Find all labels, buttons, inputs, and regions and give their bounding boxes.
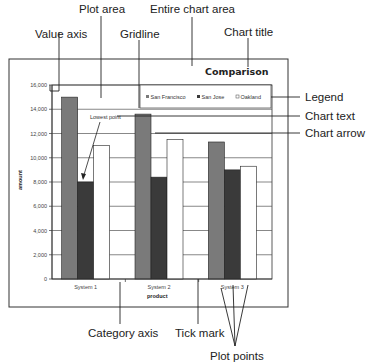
chart-text-lowest-point: Lowest point [90,114,121,120]
y-axis-title: amount [17,170,23,190]
chart-diagram: 02,0004,0006,0008,00010,00012,00014,0001… [0,0,366,364]
callout-legend: Legend [305,91,343,103]
legend-label-san-francisco: San Francisco [151,94,186,100]
callout-plot-points: Plot points [210,350,264,362]
bar-san-francisco-1 [62,97,78,279]
chart-title: Comparison [205,66,269,77]
bar-san-jose-3 [224,170,240,279]
callout-entire-chart-area: Entire chart area [150,3,236,15]
bar-san-francisco-2 [135,114,151,279]
callout-value-axis: Value axis [35,28,87,40]
legend-swatch-san-jose [197,95,200,98]
bar-oakland-2 [167,140,183,279]
y-tick-label: 4,000 [33,228,47,234]
y-tick-label: 8,000 [33,179,47,185]
bar-oakland-3 [240,166,256,279]
y-tick-label: 0 [44,276,47,282]
bar-san-jose-1 [78,182,94,279]
legend-label-oakland: Oakland [241,94,262,100]
bar-san-jose-2 [151,177,167,279]
callout-gridline: Gridline [120,28,160,40]
callout-chart-arrow: Chart arrow [305,127,366,139]
callout-chart-text: Chart text [305,110,356,122]
y-tick-label: 16,000 [30,82,47,88]
callout-chart-title: Chart title [224,26,273,38]
y-tick-label: 12,000 [30,131,47,137]
x-tick-label: System 3 [221,284,244,290]
bar-oakland-1 [94,146,110,279]
y-tick-label: 10,000 [30,155,47,161]
y-tick-label: 14,000 [30,106,47,112]
callout-category-axis: Category axis [88,327,159,339]
callout-tick-mark: Tick mark [175,327,225,339]
y-tick-label: 2,000 [33,252,47,258]
x-tick-label: System 2 [148,284,171,290]
y-tick-label: 6,000 [33,203,47,209]
legend: San Francisco San Jose Oakland [140,85,271,108]
legend-swatch-san-francisco [146,95,149,98]
legend-swatch-oakland [236,95,239,98]
legend-label-san-jose: San Jose [202,94,225,100]
callout-plot-area: Plot area [79,3,126,15]
x-tick-label: System 1 [74,284,97,290]
bar-san-francisco-3 [208,142,224,279]
x-axis-title: product [147,293,168,299]
